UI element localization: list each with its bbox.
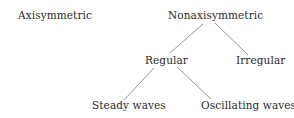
- node-axisymmetric: Axisymmetric: [18, 9, 92, 21]
- edge-nonaxisymmetric-irregular: [215, 23, 248, 55]
- classification-tree-diagram: Axisymmetric Nonaxisymmetric Regular Irr…: [0, 0, 294, 118]
- node-irregular: Irregular: [236, 54, 285, 66]
- node-regular: Regular: [145, 54, 188, 66]
- node-oscillating-waves: Oscillating waves: [201, 99, 294, 111]
- edge-regular-steady-waves: [124, 68, 154, 100]
- node-nonaxisymmetric: Nonaxisymmetric: [168, 9, 263, 21]
- edge-regular-oscillating-waves: [177, 67, 211, 99]
- edge-nonaxisymmetric-regular: [170, 24, 203, 53]
- node-steady-waves: Steady waves: [92, 99, 166, 111]
